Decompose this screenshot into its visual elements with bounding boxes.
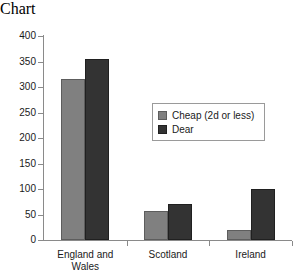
bar — [144, 211, 168, 240]
x-axis-separator-tick — [209, 241, 210, 246]
bar — [61, 79, 85, 240]
bar — [227, 230, 251, 240]
y-axis-tick — [38, 164, 43, 165]
y-axis-tick-label: 400 — [0, 31, 36, 41]
y-axis-tick-label: 50 — [0, 210, 36, 220]
y-axis-tick-label: 200 — [0, 133, 36, 143]
y-axis-tick — [38, 240, 43, 241]
x-axis-category-label: Scotland — [127, 249, 210, 261]
legend-item-label: Dear — [172, 124, 194, 135]
x-axis-separator-tick — [292, 241, 293, 246]
bar-chart: 050100150200250300350400 England andWale… — [0, 18, 301, 274]
y-axis-tick — [38, 113, 43, 114]
legend-item: Dear — [158, 122, 259, 136]
bar — [85, 59, 109, 240]
x-axis-separator-tick — [127, 241, 128, 246]
x-axis-category-label-line: Wales — [44, 261, 127, 273]
y-axis-tick — [38, 36, 43, 37]
x-axis-category-label-line: Scotland — [127, 249, 210, 261]
legend-swatch-icon — [158, 125, 167, 134]
legend-swatch-icon — [158, 111, 167, 120]
x-axis-category-label: Ireland — [209, 249, 292, 261]
y-axis-tick — [38, 215, 43, 216]
y-axis-tick-label: 150 — [0, 159, 36, 169]
legend-item: Cheap (2d or less) — [158, 108, 259, 122]
legend-item-label: Cheap (2d or less) — [172, 110, 254, 121]
bar — [168, 204, 192, 240]
y-axis-tick — [38, 189, 43, 190]
y-axis-tick — [38, 138, 43, 139]
y-axis-tick — [38, 62, 43, 63]
y-axis-tick — [38, 87, 43, 88]
y-axis-tick-label: 0 — [0, 235, 36, 245]
x-axis-line — [43, 240, 292, 241]
y-axis-tick-label: 300 — [0, 82, 36, 92]
y-axis-tick-label: 100 — [0, 184, 36, 194]
x-axis-category-label-line: Ireland — [209, 249, 292, 261]
chart-legend: Cheap (2d or less)Dear — [152, 103, 265, 141]
y-axis-tick-label: 250 — [0, 108, 36, 118]
x-axis-category-label: England andWales — [44, 249, 127, 273]
y-axis-tick-label: 350 — [0, 57, 36, 67]
bar — [251, 189, 275, 240]
x-axis-category-label-line: England and — [44, 249, 127, 261]
